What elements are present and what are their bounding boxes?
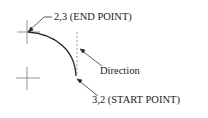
center-crosshair: [16, 67, 40, 90]
direction-label: Direction: [100, 66, 140, 77]
start-point-label: 3,2 (START POINT): [92, 95, 180, 106]
arc: [28, 32, 76, 76]
end-leader: [28, 17, 52, 32]
end-point-label: 2,3 (END POINT): [54, 12, 132, 23]
direction-leader: [80, 49, 102, 66]
